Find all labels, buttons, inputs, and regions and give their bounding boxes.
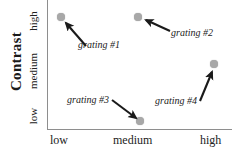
chart-figure: Contrast high medium low low medium high… — [0, 0, 236, 154]
data-point-grating-3 — [136, 117, 144, 125]
y-axis-tick-medium: medium — [27, 49, 39, 93]
arrow-to-grating-2 — [146, 20, 170, 31]
annotation-label-grating-2: grating #2 — [171, 27, 213, 38]
annotation-label-grating-1: grating #1 — [78, 39, 120, 50]
data-point-grating-4 — [210, 60, 218, 68]
y-axis-line — [47, 0, 48, 129]
y-axis-tick-low: low — [27, 94, 39, 138]
x-axis-line — [47, 129, 232, 130]
x-axis-tick-medium: medium — [113, 133, 152, 148]
y-axis-tick-high: high — [27, 0, 39, 43]
annotation-label-grating-3: grating #3 — [67, 94, 109, 105]
annotation-label-grating-4: grating #4 — [155, 95, 197, 106]
data-point-grating-1 — [57, 13, 65, 21]
data-point-grating-2 — [134, 13, 142, 21]
x-axis-tick-low: low — [50, 133, 68, 148]
x-axis-tick-high: high — [200, 133, 221, 148]
y-axis-title: Contrast — [8, 19, 25, 105]
arrow-to-grating-4 — [200, 72, 212, 101]
arrow-to-grating-3 — [112, 100, 136, 118]
